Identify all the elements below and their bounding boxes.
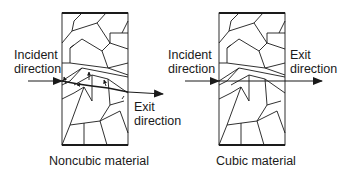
label-line: Incident [14, 48, 61, 62]
incident-label-cubic: Incident direction [168, 48, 215, 76]
exit-arrow-noncubic [128, 92, 163, 94]
scatter-ticks [64, 72, 124, 99]
label-line: direction [134, 114, 181, 128]
label-line: Incident [168, 48, 215, 62]
diagram-canvas [0, 0, 347, 174]
label-line: direction [14, 62, 61, 76]
label-line: Exit [290, 48, 337, 62]
caption-cubic: Cubic material [216, 154, 296, 168]
label-line: direction [290, 62, 337, 76]
grain-structure-cubic [219, 13, 285, 145]
label-line: Exit [134, 100, 181, 114]
caption-noncubic: Noncubic material [49, 154, 149, 168]
incident-label-noncubic: Incident direction [14, 48, 61, 76]
cubic-panel [185, 13, 322, 145]
label-line: direction [168, 62, 215, 76]
exit-label-cubic: Exit direction [290, 48, 337, 76]
grain-structure-noncubic [62, 13, 128, 145]
exit-label-noncubic: Exit direction [134, 100, 181, 128]
